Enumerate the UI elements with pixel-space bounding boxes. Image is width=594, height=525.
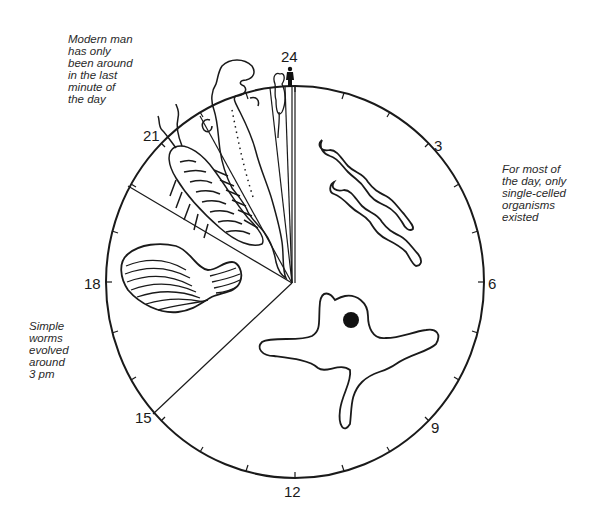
- hour-label-21: 21: [143, 128, 160, 143]
- human-illustration: [286, 67, 294, 87]
- divider-arthropods-reptiles: [200, 116, 292, 283]
- mammal-illustration: [274, 73, 285, 138]
- hour-label-6: 6: [488, 276, 496, 291]
- hour-label-12: 12: [284, 484, 301, 499]
- hour-label-3: 3: [434, 138, 442, 153]
- hour-label-15: 15: [135, 410, 152, 425]
- trilobite-illustration: [158, 104, 263, 245]
- worm-illustration: [121, 244, 241, 312]
- caption-modern-man: Modern man has only been around in the l…: [68, 33, 133, 105]
- divider-15h: [153, 283, 292, 414]
- caption-single-cells: For most of the day, only single-celled …: [502, 163, 566, 223]
- bacteria-illustration: [320, 140, 421, 266]
- dinosaur-illustration: [202, 60, 286, 278]
- amoeba-illustration: [260, 294, 439, 429]
- amoeba-nucleus: [343, 312, 359, 328]
- hour-label-24: 24: [281, 49, 298, 64]
- hour-label-18: 18: [84, 276, 101, 291]
- caption-worms: Simple worms evolved around 3 pm: [29, 320, 69, 380]
- hour-label-9: 9: [431, 420, 439, 435]
